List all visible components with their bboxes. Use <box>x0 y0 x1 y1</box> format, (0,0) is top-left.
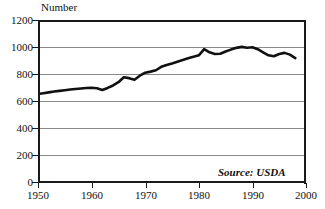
x-tick-mark-1980 <box>199 183 200 188</box>
plot-border-top <box>38 20 306 22</box>
plot-area <box>38 20 306 183</box>
series-line-number <box>38 20 306 183</box>
x-tick-mark-1960 <box>92 183 93 188</box>
x-tick-label-2000: 2000 <box>288 190 324 201</box>
y-tick-label-1000: 1000 <box>11 42 33 53</box>
y-tick-label-800: 800 <box>17 69 34 80</box>
source-note: Source: USDA <box>218 166 286 178</box>
plot-border-bottom <box>38 181 306 183</box>
x-tick-label-1980: 1980 <box>181 190 217 201</box>
x-tick-label-1990: 1990 <box>235 190 271 201</box>
chart-figure: Number 1200 1000 800 600 400 200 0 1950 … <box>0 0 325 209</box>
x-tick-label-1970: 1970 <box>128 190 164 201</box>
x-tick-mark-2000 <box>306 183 307 188</box>
x-tick-label-1960: 1960 <box>74 190 110 201</box>
y-tick-label-200: 200 <box>17 150 34 161</box>
x-tick-mark-1990 <box>253 183 254 188</box>
plot-border-right <box>304 20 306 184</box>
plot-border-left <box>38 20 40 183</box>
y-tick-label-1200: 1200 <box>11 15 33 26</box>
x-tick-label-1950: 1950 <box>20 190 56 201</box>
x-tick-mark-1950 <box>38 183 39 188</box>
y-tick-label-600: 600 <box>17 96 34 107</box>
y-axis-title: Number <box>41 1 77 13</box>
x-tick-mark-1970 <box>146 183 147 188</box>
y-tick-label-400: 400 <box>17 123 34 134</box>
